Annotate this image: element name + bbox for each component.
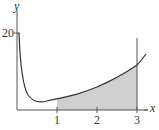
- x-tick-label-3: 3: [134, 114, 140, 126]
- y-tick-label-20: 20: [2, 27, 14, 39]
- x-tick-label-2: 2: [94, 114, 100, 126]
- chart-plot: [0, 0, 159, 130]
- y-axis-label: y: [14, 0, 19, 12]
- x-tick-label-1: 1: [54, 114, 60, 126]
- x-axis-label: x: [150, 102, 155, 114]
